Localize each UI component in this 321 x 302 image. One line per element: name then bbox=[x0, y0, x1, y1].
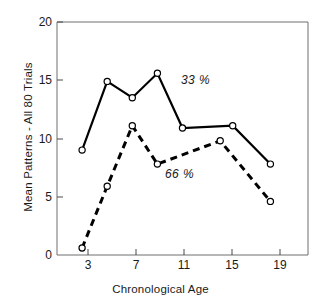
data-point-marker bbox=[154, 70, 160, 76]
data-series-layer bbox=[79, 70, 274, 251]
data-point-marker bbox=[79, 245, 85, 251]
data-point-marker bbox=[129, 95, 135, 101]
series-66- bbox=[79, 123, 274, 252]
data-point-marker bbox=[230, 123, 236, 129]
data-point-marker bbox=[179, 125, 185, 131]
data-point-marker bbox=[217, 138, 223, 144]
series-line bbox=[82, 73, 270, 164]
data-point-marker bbox=[79, 147, 85, 153]
data-point-marker bbox=[104, 183, 110, 189]
chart-plot bbox=[0, 0, 321, 302]
series-33- bbox=[79, 70, 274, 167]
chart-figure: Mean Patterns - All 80 Trials Chronologi… bbox=[0, 0, 321, 302]
data-point-marker bbox=[154, 161, 160, 167]
data-point-marker bbox=[129, 123, 135, 129]
data-point-marker bbox=[267, 161, 273, 167]
data-point-marker bbox=[267, 198, 273, 204]
data-point-marker bbox=[104, 78, 110, 84]
